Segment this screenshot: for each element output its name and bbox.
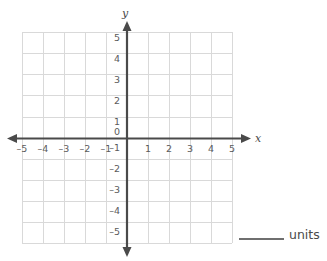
tick-label-y-2: 2 [100,96,120,106]
tick-label-x-1: 1 [138,144,158,154]
tick-label-y-5: 5 [100,33,120,43]
x-axis-right-arrowhead [241,134,251,143]
tick-label-y--1: –1 [100,143,120,153]
y-axis-top-arrowhead [123,21,132,31]
units-label: units [289,229,320,242]
x-axis-label: x [255,133,261,144]
tick-label-y--3: –3 [100,185,120,195]
tick-label-x-2: 2 [159,144,179,154]
tick-label-y-1: 1 [100,117,120,127]
answer-row: units [239,229,320,242]
coordinate-plane-worksheet: y x 0 –5 –4 –3 –2 –1 1 2 3 4 5 5 4 3 2 1… [0,0,327,261]
axes [0,0,327,261]
tick-label-y-4: 4 [100,54,120,64]
tick-label-y--5: –5 [100,227,120,237]
y-axis-label: y [122,8,128,19]
tick-label-y--4: –4 [100,206,120,216]
tick-label-x-4: 4 [201,144,221,154]
tick-label-x-5: 5 [222,144,242,154]
x-axis-left-arrowhead [7,134,17,143]
tick-label-origin: 0 [100,127,120,137]
tick-label-x-3: 3 [180,144,200,154]
tick-label-x--3: –3 [54,144,74,154]
y-axis-bottom-arrowhead [123,247,132,257]
tick-label-x--2: –2 [75,144,95,154]
answer-blank-field[interactable] [239,238,284,240]
tick-label-y-3: 3 [100,75,120,85]
tick-label-x--5: –5 [12,144,32,154]
tick-label-y--2: –2 [100,164,120,174]
tick-label-x--4: –4 [33,144,53,154]
